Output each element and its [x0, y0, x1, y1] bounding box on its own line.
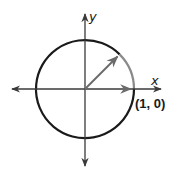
rotated-vector [85, 57, 118, 90]
point-label: (1, 0) [135, 96, 165, 111]
diagram-svg: y x (1, 0) [0, 0, 170, 175]
y-axis-label: y [88, 9, 97, 24]
x-axis-label: x [150, 73, 159, 88]
unit-circle-diagram: y x (1, 0) [0, 0, 170, 175]
highlighted-arc [120, 54, 134, 89]
